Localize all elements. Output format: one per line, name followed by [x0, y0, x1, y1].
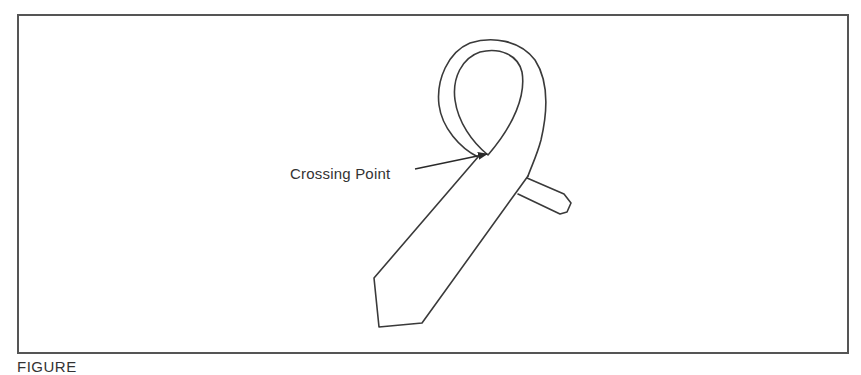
tie-inner-loop — [454, 51, 522, 155]
tie-tail — [518, 178, 571, 214]
figure-caption: FIGURE — [17, 358, 77, 375]
arrow-icon — [415, 154, 487, 169]
tie-body — [374, 157, 528, 327]
tie-outer-loop — [439, 40, 546, 176]
crossing-point-label: Crossing Point — [290, 165, 390, 182]
